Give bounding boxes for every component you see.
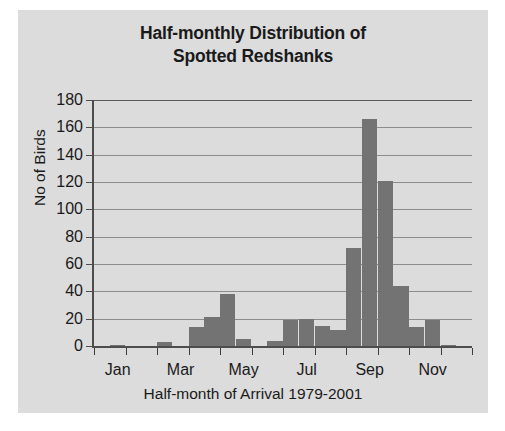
chart-title-line-1: Half-monthly Distribution of: [18, 22, 488, 45]
bar: [110, 345, 125, 347]
bar: [330, 330, 345, 346]
x-axis-tick-label: Jan: [105, 361, 131, 379]
bar: [315, 326, 330, 347]
x-axis-tick: [315, 348, 316, 355]
x-axis-tick: [409, 348, 410, 355]
chart-title-line-2: Spotted Redshanks: [18, 45, 488, 68]
bar: [362, 119, 377, 346]
x-axis-tick: [378, 348, 379, 355]
y-axis-title: No of Birds: [31, 129, 49, 206]
x-axis-tick-label: May: [229, 361, 259, 379]
y-axis-tick-label: 20: [65, 310, 83, 328]
bar: [378, 181, 393, 346]
y-axis-tick-label: 80: [65, 228, 83, 246]
bar: [393, 286, 408, 346]
y-axis-tick-label: 0: [74, 337, 83, 355]
chart-title: Half-monthly Distribution of Spotted Red…: [18, 22, 488, 69]
bar: [220, 294, 235, 346]
bar: [346, 248, 361, 346]
x-axis-tick: [220, 348, 221, 355]
y-axis-tick-label: 60: [65, 255, 83, 273]
x-axis-tick-label: Sep: [355, 361, 383, 379]
x-axis-tick: [94, 348, 95, 355]
x-axis-tick-label: Mar: [167, 361, 195, 379]
bar: [157, 342, 172, 346]
x-axis-tick: [189, 348, 190, 355]
x-axis-tick: [441, 348, 442, 355]
x-axis-tick: [472, 348, 473, 355]
y-axis-tick-label: 40: [65, 282, 83, 300]
bar: [283, 320, 298, 346]
x-axis-tick: [157, 348, 158, 355]
x-axis-title: Half-month of Arrival 1979-2001: [18, 385, 488, 403]
y-axis-tick-label: 100: [56, 200, 83, 218]
bar: [204, 317, 219, 346]
y-axis-tick-label: 160: [56, 118, 83, 136]
chart-figure: Half-monthly Distribution of Spotted Red…: [18, 10, 488, 413]
x-axis-tick: [346, 348, 347, 355]
x-axis-tick-label: Jul: [296, 361, 316, 379]
bar-series: [94, 100, 472, 346]
bar: [236, 339, 251, 346]
bar: [299, 319, 314, 346]
bar: [189, 327, 204, 346]
bar: [267, 341, 282, 346]
x-axis-tick: [252, 348, 253, 355]
bar: [441, 345, 456, 347]
x-axis-tick: [126, 348, 127, 355]
bar: [425, 320, 440, 346]
y-axis-tick-label: 140: [56, 146, 83, 164]
bar: [409, 327, 424, 346]
x-axis-tick: [283, 348, 284, 355]
y-axis-tick-label: 120: [56, 173, 83, 191]
plot-area: 020406080100120140160180 JanMarMayJulSep…: [92, 100, 472, 348]
x-axis-tick-label: Nov: [418, 361, 446, 379]
y-axis-tick-label: 180: [56, 91, 83, 109]
